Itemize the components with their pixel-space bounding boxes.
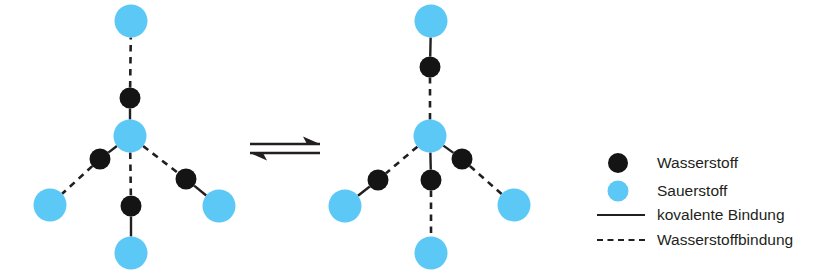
legend-hydrogen-label: Wasserstoff	[657, 154, 739, 171]
right-water-cluster-top-arm-hydrogen-atom	[420, 57, 441, 78]
left-water-cluster-central-oxygen-atom	[114, 120, 147, 153]
right-water-cluster-lower-right-arm-hydrogen-atom	[452, 149, 473, 170]
right-water-cluster-lower-right-arm-oxygen-atom	[498, 189, 531, 222]
legend-oxygen-swatch-icon	[608, 181, 629, 202]
water-hydrogen-bonding-diagram: WasserstoffSauerstoffkovalente BindungWa…	[0, 0, 835, 276]
legend-covalent-bond-label: kovalente Bindung	[657, 206, 785, 223]
left-water-cluster-lower-left-arm-oxygen-atom	[34, 189, 67, 222]
right-water-cluster-bottom-arm-hydrogen-atom	[421, 170, 442, 191]
right-water-cluster-central-oxygen-atom	[414, 120, 447, 153]
right-water-cluster-lower-left-arm-hydrogen-atom	[368, 170, 389, 191]
left-water-cluster-bottom-arm-oxygen-atom	[115, 237, 148, 270]
right-water-cluster-lower-left-arm-oxygen-atom	[329, 190, 362, 223]
left-water-cluster-lower-right-arm-hydrogen-atom	[176, 169, 197, 190]
left-water-cluster-lower-left-arm-hydrogen-atom	[90, 149, 111, 170]
legend-hydrogen-bond-label: Wasserstoffbindung	[657, 231, 793, 248]
left-water-cluster-top-arm-hydrogen-atom	[120, 88, 141, 109]
right-water-cluster-bottom-arm-oxygen-atom	[415, 237, 448, 270]
left-water-cluster-bottom-arm-hydrogen-atom	[121, 196, 142, 217]
legend-oxygen-label: Sauerstoff	[657, 182, 728, 199]
legend-hydrogen-swatch-icon	[608, 153, 628, 173]
right-water-cluster-top-arm-oxygen-atom	[415, 5, 448, 38]
left-water-cluster-lower-right-arm-oxygen-atom	[203, 190, 236, 223]
left-water-cluster-top-arm-oxygen-atom	[115, 5, 148, 38]
